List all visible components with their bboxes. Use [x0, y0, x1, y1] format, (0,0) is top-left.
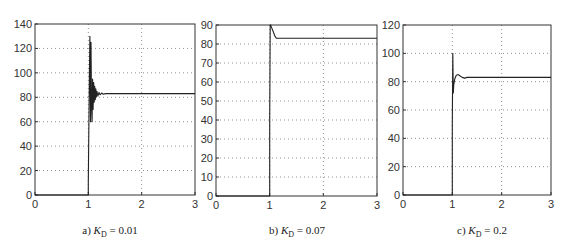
y-tick-label: 30 [201, 133, 213, 145]
response-curve [403, 53, 551, 195]
x-tick-label: 0 [213, 199, 219, 211]
y-tick-label: 20 [20, 165, 32, 177]
x-tick-label: 1 [85, 198, 91, 210]
x-tick-label: 3 [192, 198, 198, 210]
y-tick-label: 60 [201, 76, 213, 88]
x-tick-label: 2 [499, 198, 505, 210]
x-tick-label: 0 [32, 198, 38, 210]
y-tick-label: 80 [20, 91, 32, 103]
y-tick-label: 90 [201, 19, 213, 31]
chart-caption: c) KD = 0.2 [457, 224, 507, 239]
x-tick-label: 1 [267, 199, 273, 211]
x-tick-label: 2 [320, 199, 326, 211]
y-tick-label: 40 [388, 132, 400, 144]
x-tick-label: 3 [374, 199, 380, 211]
y-tick-label: 100 [382, 47, 400, 59]
y-tick-label: 20 [201, 152, 213, 164]
chart-panel-b: 01020304050607080900123b) KD = 0.07 [201, 19, 380, 239]
response-curve [216, 25, 377, 196]
y-tick-label: 40 [201, 114, 213, 126]
y-tick-label: 70 [201, 57, 213, 69]
figure: 0204060801001201400123a) KD = 0.01 01020… [0, 0, 572, 247]
y-tick-label: 50 [201, 95, 213, 107]
y-tick-label: 80 [201, 38, 213, 50]
chart-panel-a: 0204060801001201400123a) KD = 0.01 [14, 18, 198, 239]
x-tick-label: 2 [139, 198, 145, 210]
y-tick-label: 40 [20, 140, 32, 152]
y-tick-label: 120 [14, 42, 32, 54]
plot-area [403, 25, 551, 195]
y-tick-label: 140 [14, 18, 32, 30]
y-tick-label: 100 [14, 67, 32, 79]
chart-caption: a) KD = 0.01 [82, 224, 137, 239]
y-tick-label: 20 [388, 161, 400, 173]
y-tick-label: 80 [388, 76, 400, 88]
y-tick-label: 60 [20, 116, 32, 128]
x-tick-label: 0 [400, 198, 406, 210]
x-tick-label: 3 [548, 198, 554, 210]
y-tick-label: 60 [388, 104, 400, 116]
chart-caption: b) KD = 0.07 [269, 224, 326, 239]
response-curve [35, 36, 195, 195]
plot-area [216, 25, 377, 196]
x-tick-label: 1 [449, 198, 455, 210]
y-tick-label: 10 [201, 171, 213, 183]
chart-panel-c: 0204060801001200123c) KD = 0.2 [382, 19, 554, 239]
plot-area [35, 24, 195, 195]
y-tick-label: 120 [382, 19, 400, 31]
